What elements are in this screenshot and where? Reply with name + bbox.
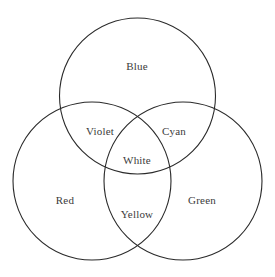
venn-circles-canvas bbox=[0, 0, 275, 277]
region-label-green: Green bbox=[188, 195, 216, 206]
region-label-cyan: Cyan bbox=[162, 126, 186, 137]
region-label-yellow: Yellow bbox=[121, 209, 153, 220]
venn-circle-blue bbox=[60, 18, 216, 174]
region-label-blue: Blue bbox=[126, 61, 148, 72]
region-label-violet: Violet bbox=[86, 126, 114, 137]
region-label-white: White bbox=[123, 155, 151, 166]
venn-diagram-figure: Blue Red Green Violet Cyan Yellow White bbox=[0, 0, 275, 277]
region-label-red: Red bbox=[56, 195, 74, 206]
